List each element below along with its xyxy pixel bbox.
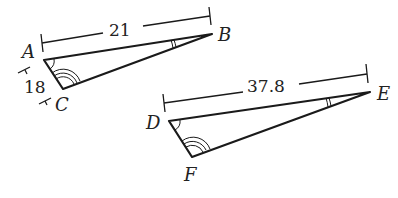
length-label-ab: 21 [109, 20, 131, 40]
vertex-label-a: A [20, 41, 35, 62]
angle-d-mark [175, 120, 180, 130]
triangle-abc-outline [44, 34, 212, 89]
vertex-label-b: B [217, 24, 231, 45]
angle-c-mark [52, 69, 80, 84]
vertex-label-e: E [376, 83, 390, 104]
length-label-de: 37.8 [247, 76, 285, 96]
similar-triangles-diagram: A B C D E F 21 18 37.8 [0, 0, 398, 198]
vertex-label-f: F [183, 164, 198, 185]
length-label-ac: 18 [24, 77, 46, 97]
angle-a-mark [50, 59, 54, 69]
vertex-label-c: C [55, 94, 69, 115]
vertex-label-d: D [145, 112, 161, 133]
